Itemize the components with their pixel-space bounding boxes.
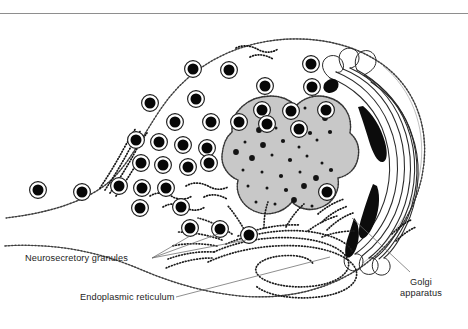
granule	[142, 95, 159, 112]
granule	[318, 102, 335, 119]
granule	[291, 121, 308, 138]
label-neurosecretory-granules: Neurosecretory granules	[25, 253, 128, 264]
granule	[155, 157, 172, 174]
granule	[283, 103, 300, 120]
figure-canvas: Neurosecretory granules Endoplasmic reti…	[0, 0, 468, 329]
nuclear-speckle	[274, 203, 277, 206]
nuclear-speckle	[242, 169, 245, 172]
granule	[203, 114, 220, 131]
nuclear-speckle	[279, 174, 283, 178]
nuclear-speckle	[284, 188, 288, 192]
granule	[303, 56, 320, 73]
label-golgi-line1: Golgi	[410, 277, 432, 287]
granule	[151, 134, 168, 151]
granule	[158, 180, 175, 197]
nuclear-speckle	[328, 130, 332, 134]
granule	[257, 78, 274, 95]
granule	[133, 155, 150, 172]
granule	[134, 180, 151, 197]
nuclear-speckle	[255, 201, 258, 204]
granule	[212, 221, 229, 238]
nuclear-speckle	[304, 107, 307, 110]
nuclear-speckle	[313, 175, 319, 181]
nuclear-speckle	[249, 155, 255, 161]
granule	[182, 220, 199, 237]
nuclear-speckle	[288, 158, 292, 162]
nuclear-speckle	[261, 171, 264, 174]
granule	[74, 184, 91, 201]
granule	[173, 199, 190, 216]
nuclear-speckle	[291, 197, 297, 203]
label-golgi-apparatus: Golgi apparatus	[392, 277, 450, 299]
granule	[111, 178, 128, 195]
nuclear-speckle	[329, 168, 333, 172]
nuclear-speckle	[316, 139, 319, 142]
granule	[201, 155, 218, 172]
granule	[304, 79, 321, 96]
nuclear-speckle	[271, 154, 274, 157]
granule	[132, 200, 149, 217]
nuclear-speckle	[281, 139, 285, 143]
nuclear-speckle	[266, 187, 269, 190]
nuclear-speckle	[244, 141, 247, 144]
granule	[188, 91, 205, 108]
nuclear-speckle	[321, 162, 324, 165]
label-golgi-line2: apparatus	[400, 288, 442, 298]
nuclear-speckle	[298, 146, 301, 149]
granule	[231, 114, 248, 131]
granule	[175, 137, 192, 154]
nuclear-speckle	[301, 183, 307, 189]
granule	[199, 140, 216, 157]
nuclear-speckle	[311, 205, 314, 208]
granule	[180, 159, 197, 176]
granule	[128, 132, 145, 149]
label-endoplasmic-reticulum: Endoplasmic reticulum	[80, 292, 175, 303]
nuclear-speckle	[260, 142, 266, 148]
nuclear-speckle	[308, 131, 312, 135]
granule	[319, 184, 336, 201]
granule	[259, 116, 276, 133]
nuclear-speckle	[247, 185, 250, 188]
granule	[167, 114, 184, 131]
nuclear-speckle	[299, 171, 302, 174]
granule	[221, 62, 238, 79]
nuclear-speckle	[233, 149, 239, 155]
nuclear-speckle	[306, 155, 309, 158]
granule	[185, 61, 202, 78]
granule	[30, 182, 47, 199]
